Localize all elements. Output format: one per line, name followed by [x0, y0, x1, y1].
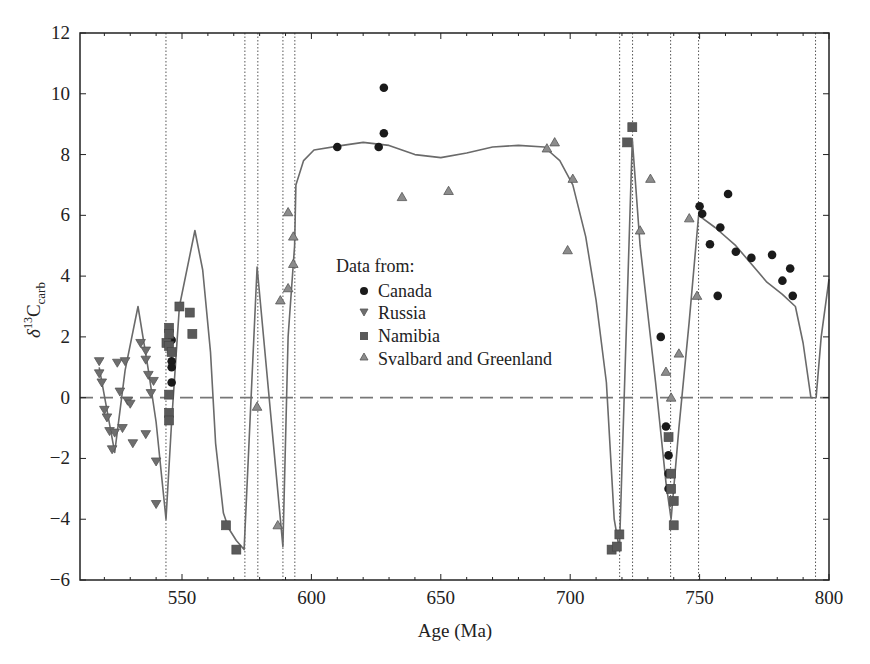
x-tick-label: 800: [815, 587, 844, 608]
russia-point: [97, 379, 107, 387]
canada-point: [713, 292, 722, 301]
y-tick-label: 6: [61, 204, 71, 225]
y-tick-label: 12: [51, 22, 70, 43]
svalbard-greenland-point: [674, 349, 684, 357]
plot-border: [80, 33, 829, 580]
x-axis-title: Age (Ma): [418, 620, 492, 642]
russia-point: [141, 347, 151, 355]
svalbard-greenland-point: [646, 174, 656, 182]
russia-point: [141, 356, 151, 364]
vertical-dotted-lines: [166, 33, 816, 580]
canada-point: [706, 240, 715, 249]
russia-point: [151, 501, 161, 509]
circle-marker-icon: [360, 287, 368, 295]
svalbard-greenland-point: [550, 138, 560, 146]
model-curve: [99, 139, 829, 549]
triangle-up-marker-icon: [360, 353, 368, 360]
canada-point: [333, 143, 342, 152]
canada-point: [716, 223, 725, 232]
y-tick-label: 10: [51, 83, 70, 104]
legend-entry-namibia: Namibia: [360, 326, 440, 346]
russia-point: [113, 359, 123, 367]
russia-point: [118, 425, 128, 433]
chart: 550600650700750800 −6−4−2024681012 Age (…: [0, 0, 870, 664]
legend-entry-canada: Canada: [360, 281, 432, 301]
namibia-point: [165, 416, 174, 425]
legend-entry-svalbard-greenland: Svalbard and Greenland: [360, 349, 552, 369]
svalbard-greenland-point: [684, 214, 694, 222]
model-curve-path: [99, 139, 829, 549]
svalbard-greenland-point: [444, 186, 454, 194]
namibia-point: [612, 542, 621, 551]
y-tick-label: 8: [61, 144, 71, 165]
x-axis: 550600650700750800: [104, 33, 843, 608]
svalbard-greenland-point: [635, 226, 645, 234]
canada-point: [380, 83, 389, 92]
namibia-point: [188, 329, 197, 338]
canada-point: [374, 143, 383, 152]
namibia-point: [221, 521, 230, 530]
y-axis-title: δ13Ccarb: [21, 282, 48, 338]
legend-label-russia: Russia: [378, 303, 426, 323]
svalbard-greenland-point: [563, 245, 573, 253]
namibia-point: [669, 496, 678, 505]
russia-point: [94, 370, 104, 378]
namibia-point: [664, 433, 673, 442]
legend-label-canada: Canada: [378, 281, 432, 301]
svalbard-greenland-point: [288, 259, 298, 267]
svalbard-greenland-point: [288, 232, 298, 240]
triangle-down-marker-icon: [360, 309, 368, 316]
namibia-point: [615, 530, 624, 539]
square-marker-icon: [360, 332, 368, 340]
x-tick-label: 550: [168, 587, 197, 608]
legend-label-svalbard-greenland: Svalbard and Greenland: [378, 349, 552, 369]
russia-point: [146, 390, 156, 398]
canada-point: [768, 251, 777, 260]
namibia-point: [185, 308, 194, 317]
canada-point: [664, 451, 673, 460]
svalbard-greenland-point: [283, 207, 293, 215]
canada-point: [747, 254, 756, 263]
namibia-point: [232, 545, 241, 554]
canada-point: [698, 210, 707, 219]
canada-point: [788, 292, 797, 301]
canada-point: [778, 276, 787, 285]
legend-title: Data from:: [336, 256, 414, 276]
namibia-point: [667, 469, 676, 478]
y-tick-label: −4: [50, 508, 71, 529]
russia-point: [120, 358, 130, 366]
svalbard-greenland-point: [276, 296, 286, 304]
legend: Data from: Canada Russia Namibia Svalbar…: [336, 256, 552, 369]
legend-label-namibia: Namibia: [378, 326, 440, 346]
namibia-point: [667, 484, 676, 493]
svalbard-greenland-point: [397, 192, 407, 200]
canada-point: [786, 264, 795, 273]
namibia-point: [628, 123, 637, 132]
x-tick-label: 650: [427, 587, 456, 608]
svalbard-greenland-point: [692, 291, 702, 299]
namibia-point: [623, 138, 632, 147]
russia-point: [128, 440, 138, 448]
canada-point: [167, 378, 176, 387]
canada-point: [380, 129, 389, 138]
russia-point: [141, 431, 151, 439]
y-tick-label: 4: [61, 265, 71, 286]
canada-point: [724, 190, 733, 199]
y-tick-label: −2: [50, 447, 70, 468]
y-tick-label: 0: [61, 387, 71, 408]
legend-entry-russia: Russia: [360, 303, 426, 323]
canada-point: [695, 202, 704, 211]
x-tick-label: 700: [556, 587, 585, 608]
namibia-point: [175, 302, 184, 311]
data-points: [94, 83, 797, 554]
canada-point: [732, 248, 741, 257]
y-tick-label: −6: [50, 569, 70, 590]
namibia-point: [167, 348, 176, 357]
x-tick-label: 600: [297, 587, 326, 608]
x-tick-label: 750: [685, 587, 714, 608]
russia-point: [102, 414, 112, 422]
y-tick-label: 2: [61, 326, 71, 347]
canada-point: [167, 363, 176, 372]
russia-point: [115, 388, 125, 396]
namibia-point: [165, 329, 174, 338]
